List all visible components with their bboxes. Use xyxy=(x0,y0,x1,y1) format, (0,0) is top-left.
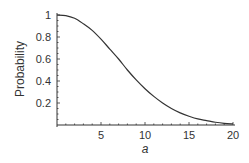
y-tick-label: 0.2 xyxy=(36,97,51,109)
chart: 51015200.20.40.60.81 Probability a xyxy=(0,0,249,163)
y-tick-label: 0.6 xyxy=(36,53,51,65)
x-tick-label: 5 xyxy=(98,129,104,141)
y-tick-label: 0.8 xyxy=(36,31,51,43)
x-tick-label: 10 xyxy=(139,129,151,141)
y-tick-label: 0.4 xyxy=(36,75,51,87)
x-axis-label: a xyxy=(142,142,149,156)
y-tick-label: 1 xyxy=(45,9,51,21)
x-tick-label: 20 xyxy=(227,129,239,141)
ticks xyxy=(57,15,233,125)
x-tick-label: 15 xyxy=(183,129,195,141)
axes xyxy=(57,13,235,127)
probability-curve xyxy=(57,15,233,124)
y-axis-label: Probability xyxy=(13,41,27,97)
